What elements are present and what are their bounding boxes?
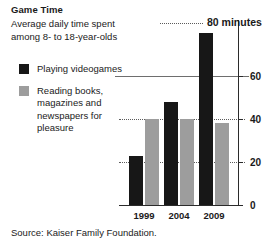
bar-2009-playing: [199, 33, 213, 205]
bar-2004-reading: [180, 119, 194, 205]
bar-1999-playing: [129, 156, 143, 205]
y-tick-0: [238, 205, 243, 206]
y-tick-20: [238, 162, 243, 163]
x-axis: [119, 205, 239, 206]
plot-area: 0204060199920042009: [119, 20, 238, 206]
bar-2009-reading: [215, 123, 229, 205]
source-note: Source: Kaiser Family Foundation.: [11, 227, 157, 238]
legend-swatch-videogames: [19, 64, 29, 74]
y-tick-label-40: 40: [250, 113, 261, 124]
callout-80-minutes: 80 minutes: [207, 16, 262, 28]
bar-1999-reading: [145, 119, 159, 205]
y-tick-label-60: 60: [250, 70, 261, 81]
legend-swatch-reading: [19, 86, 29, 96]
x-tick-label-2004: 2004: [163, 210, 195, 221]
gridline-60: [115, 76, 249, 77]
y-tick-label-20: 20: [250, 156, 261, 167]
y-tick-40: [238, 119, 243, 120]
chart-title: Game Time: [11, 4, 63, 15]
callout-leader-line: [160, 23, 203, 24]
x-tick-label-2009: 2009: [198, 210, 230, 221]
y-tick-label-0: 0: [250, 200, 256, 211]
bar-2004-playing: [164, 102, 178, 205]
y-tick-60: [238, 76, 243, 77]
x-tick-label-1999: 1999: [128, 210, 160, 221]
y-axis: [238, 20, 239, 206]
chart-figure: Game Time Average daily time spent among…: [0, 0, 277, 246]
